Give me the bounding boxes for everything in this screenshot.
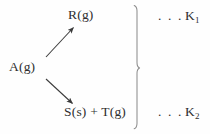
product-top-label: R(g) (68, 8, 94, 22)
constant-subscript-bottom: 2 (195, 111, 200, 121)
constant-subscript-top: 1 (195, 15, 200, 25)
constant-symbol-bottom: K (185, 104, 195, 119)
constant-symbol-top: K (185, 8, 195, 23)
reaction-scheme-figure: A(g) R(g) S(s) + T(g) . . .K1 . . .K2 (0, 0, 210, 134)
equilibrium-constant-top: . . .K1 (158, 9, 200, 25)
arrow-to-top-product (46, 28, 74, 58)
product-bottom-label: S(s) + T(g) (64, 105, 126, 119)
right-curly-brace (134, 6, 139, 129)
equilibrium-constant-bottom: . . .K2 (158, 105, 200, 121)
ellipsis-top: . . . (158, 8, 185, 23)
ellipsis-bottom: . . . (158, 104, 185, 119)
arrow-to-bottom-product (46, 79, 73, 104)
reactant-label: A(g) (9, 60, 35, 74)
